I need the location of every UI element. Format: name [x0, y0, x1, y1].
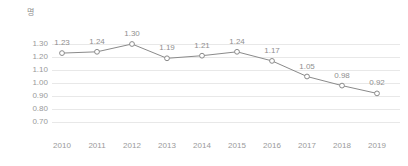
plot-area: [0, 0, 408, 166]
data-point-label: 1.19: [150, 44, 184, 52]
series-line: [62, 44, 377, 93]
data-point-label: 1.21: [185, 42, 219, 50]
data-point-marker: [270, 59, 275, 64]
data-point-label: 1.24: [220, 38, 254, 46]
data-point-label: 1.17: [255, 47, 289, 55]
data-point-label: 1.30: [115, 30, 149, 38]
data-point-label: 1.23: [45, 39, 79, 47]
data-point-marker: [60, 51, 65, 56]
data-point-marker: [305, 74, 310, 79]
data-point-marker: [95, 49, 100, 54]
line-chart: 명 1.301.201.101.000.900.800.70 201020112…: [0, 0, 408, 166]
data-point-marker: [235, 49, 240, 54]
data-point-label: 1.05: [290, 63, 324, 71]
data-point-marker: [340, 83, 345, 88]
data-point-marker: [200, 53, 205, 58]
data-point-label: 0.98: [325, 72, 359, 80]
data-point-marker: [375, 91, 380, 96]
data-point-label: 1.24: [80, 38, 114, 46]
data-point-marker: [165, 56, 170, 61]
data-point-label: 0.92: [360, 79, 394, 87]
data-point-marker: [130, 42, 135, 47]
